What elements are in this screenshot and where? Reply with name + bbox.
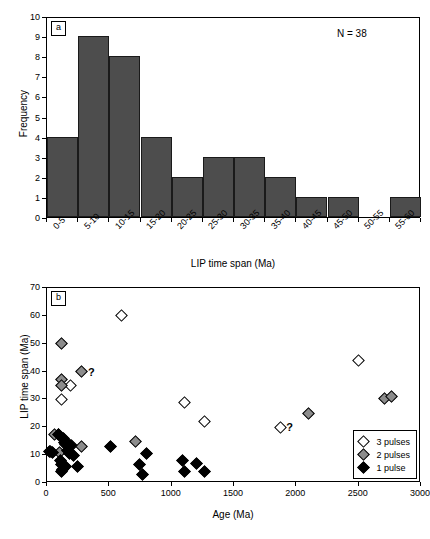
panel-b-tag: b	[51, 291, 66, 306]
panel-b-y-tickmark-30	[42, 398, 46, 399]
panel-a-y-tickmark-1	[42, 198, 46, 199]
panel-b-y-tickmark-60	[42, 315, 46, 316]
panel-b-x-tickmark-2000	[295, 482, 296, 486]
panel-a-x-tick-label: 15-20	[144, 208, 167, 231]
panel-a-x-tickmark	[108, 218, 109, 222]
panel-a-x-tick-label: 45-50	[331, 208, 354, 231]
panel-a-x-tickmark	[46, 218, 47, 222]
panel-a-x-tickmark	[389, 218, 390, 222]
panel-a-x-tick-label: 10-15	[113, 208, 136, 231]
panel-a-x-tick-labels: 0-55-1010-1515-2020-2525-3030-3535-4040-…	[0, 0, 428, 272]
panel-b-x-tick-label-1000: 1000	[161, 488, 181, 498]
panel-b-x-tickmark-1500	[233, 482, 234, 486]
panel-a-y-tickmark-8	[42, 57, 46, 58]
panel-b-x-tick-label-500: 500	[101, 488, 116, 498]
panel-a-x-tick-label: 50-55	[362, 208, 385, 231]
panel-b-x-axis-title: Age (Ma)	[46, 509, 420, 520]
panel-a-y-tickmark-6	[42, 97, 46, 98]
panel-a-x-tickmark	[233, 218, 234, 222]
panel-b-x-tick-label-3000: 3000	[410, 488, 430, 498]
panel-b-x-tickmark-2500	[358, 482, 359, 486]
legend-marker-icon	[358, 461, 371, 474]
panel-b-x-tick-labels: 050010001500200025003000	[0, 277, 428, 539]
panel-a-y-tickmark-5	[42, 118, 46, 119]
panel-a-x-tickmark	[171, 218, 172, 222]
panel-b-x-tickmark-1000	[171, 482, 172, 486]
panel-a-y-tickmark-0	[42, 218, 46, 219]
panel-a-x-tick-label: 25-30	[206, 208, 229, 231]
panel-a-x-tickmark	[295, 218, 296, 222]
panel-b-x-tick-label-1500: 1500	[223, 488, 243, 498]
panel-b-y-tickmark-40	[42, 371, 46, 372]
legend-marker-icon	[358, 448, 371, 461]
panel-b-x-tickmark-3000	[420, 482, 421, 486]
panel-a-x-tick-label: 35-40	[269, 208, 292, 231]
legend-item: 3 pulses	[359, 435, 410, 448]
panel-b-y-tickmark-0	[42, 482, 46, 483]
legend-item-label: 3 pulses	[376, 437, 410, 447]
legend-item-label: 1 pulse	[376, 463, 405, 473]
panel-a-y-tickmark-7	[42, 77, 46, 78]
panel-b-y-tickmark-70	[42, 287, 46, 288]
legend-marker-icon	[358, 435, 371, 448]
panel-b-x-tick-label-2000: 2000	[285, 488, 305, 498]
legend-item: 1 pulse	[359, 461, 410, 474]
panel-a: Frequency 012345678910 a N = 38 0-55-101…	[0, 0, 428, 272]
panel-a-x-axis-title: LIP time span (Ma)	[46, 258, 420, 269]
panel-a-x-tick-label: 55-60	[393, 208, 416, 231]
panel-b-y-tickmark-20	[42, 426, 46, 427]
panel-a-x-tick-label: 20-25	[175, 208, 198, 231]
panel-b: LIP time span (Ma) 010203040506070 ?? 3 …	[0, 277, 428, 539]
legend-item-label: 2 pulses	[376, 450, 410, 460]
panel-b-y-tickmark-50	[42, 343, 46, 344]
panel-b-x-tick-label-2500: 2500	[348, 488, 368, 498]
panel-a-x-tick-label: 5-10	[82, 211, 102, 231]
panel-a-x-tickmark	[202, 218, 203, 222]
panel-a-x-tick-label: 0-5	[51, 215, 67, 231]
panel-a-y-tickmark-2	[42, 178, 46, 179]
panel-a-x-tickmark	[264, 218, 265, 222]
panel-a-x-tickmark	[327, 218, 328, 222]
panel-a-x-tickmark	[358, 218, 359, 222]
panel-a-y-tickmark-10	[42, 17, 46, 18]
panel-b-x-tickmark-500	[108, 482, 109, 486]
panel-a-x-tickmark	[77, 218, 78, 222]
panel-a-y-tickmark-4	[42, 138, 46, 139]
panel-a-y-tickmark-3	[42, 158, 46, 159]
panel-b-legend: 3 pulses2 pulses1 pulse	[353, 430, 417, 479]
panel-b-y-tickmark-10	[42, 454, 46, 455]
legend-item: 2 pulses	[359, 448, 410, 461]
panel-b-x-tick-label-0: 0	[43, 488, 48, 498]
panel-b-x-tickmark-0	[46, 482, 47, 486]
panel-a-x-tick-label: 30-35	[238, 208, 261, 231]
panel-a-x-tick-label: 40-45	[300, 208, 323, 231]
panel-a-x-tickmark	[420, 218, 421, 222]
panel-a-tag: a	[51, 21, 66, 36]
panel-a-x-tickmark	[140, 218, 141, 222]
panel-a-y-tickmark-9	[42, 37, 46, 38]
